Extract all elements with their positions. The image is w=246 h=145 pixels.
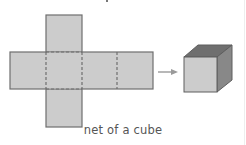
cube-3d (184, 45, 232, 92)
figure-caption: net of a cube (0, 123, 246, 137)
arrow-right-icon (158, 69, 178, 75)
cube-front-face (184, 57, 217, 92)
cube-net (10, 15, 153, 127)
